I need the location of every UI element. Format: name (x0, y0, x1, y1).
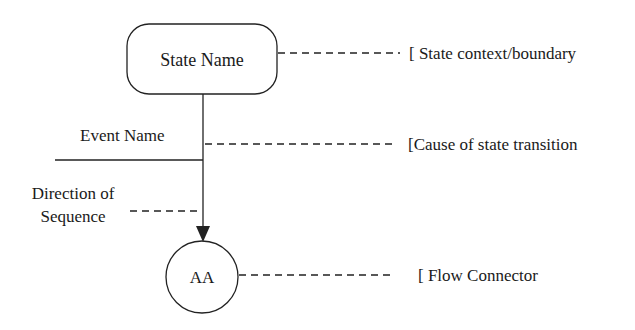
arrowhead-icon (196, 226, 210, 242)
cause-annotation: [Cause of state transition (408, 136, 578, 153)
connector-label: AA (166, 269, 238, 286)
state-context-annotation: [ State context/boundary (409, 45, 576, 62)
flow-connector-annotation: [ Flow Connector (418, 267, 538, 284)
direction-label-line1: Direction of (18, 185, 128, 202)
state-name-label: State Name (127, 51, 277, 69)
direction-label-line2: Sequence (18, 208, 128, 225)
event-name-label: Event Name (80, 127, 165, 144)
